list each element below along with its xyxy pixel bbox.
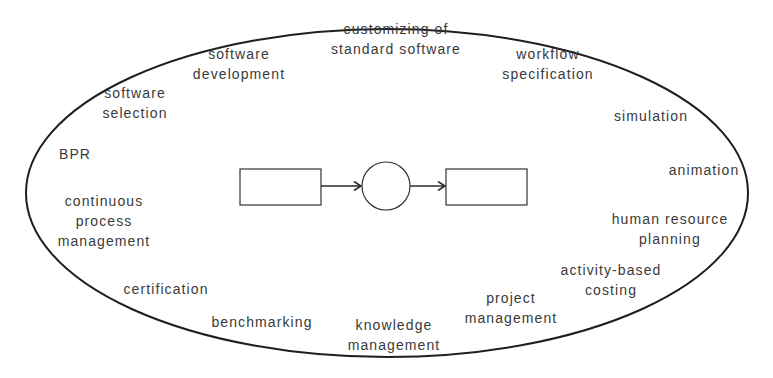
label-line: management	[58, 231, 151, 251]
label-project-management: projectmanagement	[465, 288, 558, 328]
label-continuous-process-management: continuousprocessmanagement	[58, 191, 151, 251]
label-benchmarking: benchmarking	[211, 312, 312, 332]
label-line: BPR	[59, 144, 91, 164]
label-line: costing	[561, 280, 662, 300]
label-line: workflow	[502, 44, 593, 64]
label-animation: animation	[669, 160, 740, 180]
label-human-resource-planning: human resourceplanning	[612, 209, 729, 249]
label-simulation: simulation	[614, 106, 688, 126]
label-software-selection: softwareselection	[102, 83, 167, 123]
label-line: benchmarking	[211, 312, 312, 332]
label-workflow-specification: workflowspecification	[502, 44, 593, 84]
label-line: project	[465, 288, 558, 308]
label-line: management	[348, 335, 441, 355]
label-software-development: softwaredevelopment	[193, 44, 285, 84]
input-box	[240, 169, 321, 205]
label-line: certification	[123, 279, 208, 299]
label-line: standard software	[331, 39, 461, 59]
label-certification: certification	[123, 279, 208, 299]
label-line: planning	[612, 229, 729, 249]
label-line: continuous	[58, 191, 151, 211]
label-line: human resource	[612, 209, 729, 229]
label-line: animation	[669, 160, 740, 180]
label-line: management	[465, 308, 558, 328]
function-circle	[362, 162, 410, 210]
label-activity-based-costing: activity-basedcosting	[561, 260, 662, 300]
label-line: specification	[502, 64, 593, 84]
label-line: knowledge	[348, 315, 441, 335]
label-line: development	[193, 64, 285, 84]
label-line: software	[193, 44, 285, 64]
label-line: activity-based	[561, 260, 662, 280]
label-line: process	[58, 211, 151, 231]
output-box	[446, 169, 527, 205]
label-line: software	[102, 83, 167, 103]
label-customizing-standard-software: customizing ofstandard software	[331, 19, 461, 59]
label-bpr: BPR	[59, 144, 91, 164]
label-knowledge-management: knowledgemanagement	[348, 315, 441, 355]
label-line: selection	[102, 103, 167, 123]
label-line: customizing of	[331, 19, 461, 39]
label-line: simulation	[614, 106, 688, 126]
